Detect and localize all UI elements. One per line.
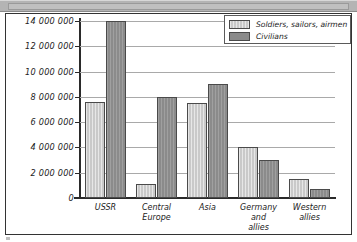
legend-label-soldiers: Soldiers, sailors, airmen [256,20,347,29]
y-axis-tick [75,147,80,148]
y-axis-tick-label: 12 000 000 [25,41,74,51]
legend-item-soldiers: Soldiers, sailors, airmen [229,19,347,29]
y-axis-tick-label: 14 000 000 [25,16,74,26]
y-axis-tick-label: 4 000 000 [31,142,74,152]
plot-area: 14 000 00012 000 00010 000 0008 000 0006… [80,21,335,198]
bar-soldiers [238,147,258,198]
y-axis-tick-label: 10 000 000 [25,67,74,77]
bar-soldiers [85,102,105,198]
x-axis-label: Asia [182,203,233,213]
bar-soldiers [289,179,309,198]
bar-civilians [106,21,126,198]
x-axis-label: Central Europe [131,203,182,223]
chart-frame: 14 000 00012 000 00010 000 0008 000 0006… [5,13,352,235]
page-bottom-mark [6,237,10,240]
legend-swatch-soldiers-icon [229,20,250,29]
y-axis-tick-label: 2 000 000 [31,168,74,178]
bar-civilians [208,84,228,198]
y-axis-tick-label: 6 000 000 [31,117,74,127]
y-axis-tick [75,21,80,22]
y-axis-tick [75,46,80,47]
bar-civilians [157,97,177,198]
x-axis-label: Germany and allies [233,203,284,233]
y-axis-tick [75,97,80,98]
y-axis-tick-label: 0 [69,193,74,203]
legend-swatch-civilians-icon [229,32,250,41]
bar-civilians [310,189,330,198]
y-axis-tick [75,72,80,73]
y-axis-tick [75,173,80,174]
chart-legend: Soldiers, sailors, airmen Civilians [224,15,351,44]
legend-item-civilians: Civilians [229,31,288,41]
bar-soldiers [136,184,156,198]
y-axis-tick-label: 8 000 000 [31,92,74,102]
top-strip-inner-bar [8,3,349,10]
legend-label-civilians: Civilians [256,32,288,41]
y-axis-tick [75,198,80,199]
bar-civilians [259,160,279,198]
bar-soldiers [187,103,207,198]
x-axis-label: USSR [80,203,131,213]
top-decorative-strip [0,0,357,12]
x-axis-label: Western allies [284,203,335,223]
y-axis-tick [75,122,80,123]
